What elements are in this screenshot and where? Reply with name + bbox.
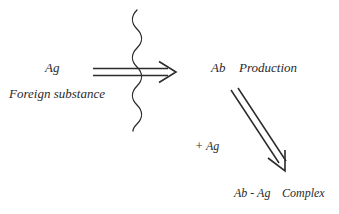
wavy-barrier-icon	[133, 10, 142, 131]
antibody-label: Ab	[211, 61, 225, 74]
plus-antigen-label: + Ag	[195, 140, 219, 152]
antibody-action-label: Production	[239, 61, 297, 74]
complex-word-label: Complex	[282, 187, 325, 199]
antigen-caption-label: Foreign substance	[9, 87, 105, 100]
complex-pair-label: Ab - Ag	[234, 187, 270, 199]
antigen-label: Ag	[45, 61, 59, 74]
immune-response-diagram: Ag Foreign substance Ab Production + Ag …	[0, 0, 339, 214]
diagram-vector-layer	[0, 0, 339, 214]
diagonal-double-arrow-icon	[231, 88, 286, 171]
